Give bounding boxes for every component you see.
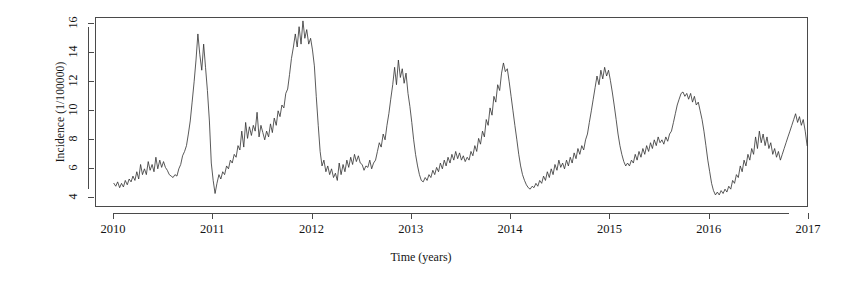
y-tick (88, 23, 94, 24)
x-tick-label: 2010 (90, 222, 136, 237)
x-tick-label: 2013 (388, 222, 434, 237)
x-tick-label: 2015 (586, 222, 632, 237)
x-tick-label: 2016 (686, 222, 732, 237)
x-tick (411, 213, 412, 219)
y-tick-label: 8 (66, 127, 81, 149)
y-tick (88, 139, 94, 140)
y-tick-label: 16 (66, 11, 81, 33)
incidence-line-series (96, 18, 809, 208)
x-tick (609, 213, 610, 219)
y-tick-label: 12 (66, 69, 81, 91)
plot-area (95, 17, 808, 207)
x-axis-line (113, 213, 789, 214)
y-tick (88, 168, 94, 169)
x-axis-title: Time (years) (0, 250, 842, 265)
x-tick-label: 2017 (785, 222, 831, 237)
y-tick-label: 6 (66, 156, 81, 178)
x-tick-label: 2012 (289, 222, 335, 237)
y-tick (88, 110, 94, 111)
x-tick (312, 213, 313, 219)
y-tick-label: 4 (66, 185, 81, 207)
x-tick (709, 213, 710, 219)
y-tick-label: 14 (66, 40, 81, 62)
y-tick (88, 197, 94, 198)
y-tick (88, 81, 94, 82)
incidence-time-series-figure: Incidence (1/100000) 46810121416 2010201… (0, 0, 842, 281)
x-tick (510, 213, 511, 219)
x-tick (113, 213, 114, 219)
y-tick (88, 52, 94, 53)
y-tick-label: 10 (66, 98, 81, 120)
series-polyline (114, 21, 807, 195)
x-tick-label: 2011 (189, 222, 235, 237)
x-tick (212, 213, 213, 219)
x-tick (808, 213, 809, 219)
x-tick-label: 2014 (487, 222, 533, 237)
